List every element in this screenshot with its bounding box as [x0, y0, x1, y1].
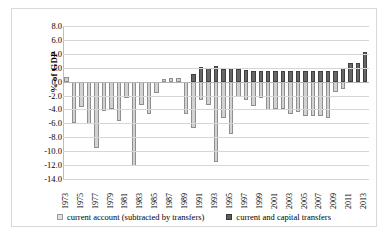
- bar-group[interactable]: [221, 26, 225, 179]
- bar-group[interactable]: [87, 26, 91, 179]
- y-axis-tick-label: -12.0: [28, 161, 62, 170]
- bar-group[interactable]: [139, 26, 143, 179]
- y-axis-tick-label: -2.0: [28, 91, 62, 100]
- bar-segment-transfers: [244, 70, 248, 82]
- y-axis-tick-label: 8.0: [28, 22, 62, 31]
- bar-group[interactable]: [176, 26, 180, 179]
- y-axis-tick-label: -4.0: [28, 105, 62, 114]
- gridline: [63, 151, 369, 152]
- bar-group[interactable]: [191, 26, 195, 179]
- bar-segment-current-account: [311, 82, 315, 117]
- bar-group[interactable]: [236, 26, 240, 179]
- bar-group[interactable]: [64, 26, 68, 179]
- x-axis-tick-label: 2001: [271, 193, 279, 209]
- gridline: [63, 165, 369, 166]
- bar-group[interactable]: [206, 26, 210, 179]
- gridline: [63, 26, 369, 27]
- x-axis-tick-label: 1999: [256, 193, 264, 209]
- y-axis-tick-label: 6.0: [28, 36, 62, 45]
- x-axis-tick-label: 1987: [166, 193, 174, 209]
- bar-group[interactable]: [296, 26, 300, 179]
- bar-group[interactable]: [94, 26, 98, 179]
- bar-segment-transfers: [191, 74, 195, 82]
- bar-group[interactable]: [341, 26, 345, 179]
- bar-group[interactable]: [303, 26, 307, 179]
- x-axis-tick-label: 2013: [360, 193, 368, 209]
- bar-group[interactable]: [273, 26, 277, 179]
- bar-segment-transfers: [296, 71, 300, 81]
- bar-segment-transfers: [236, 69, 240, 82]
- bar-segment-current-account: [79, 82, 83, 107]
- bar-segment-transfers: [341, 68, 345, 82]
- legend-swatch-transfers: [226, 214, 232, 220]
- x-axis-tick-label: 1991: [196, 193, 204, 209]
- x-axis-tick-label: 2007: [315, 193, 323, 209]
- bar-group[interactable]: [72, 26, 76, 179]
- x-axis-tick-label: 1995: [226, 193, 234, 209]
- y-axis-tick-label: -14.0: [28, 175, 62, 184]
- bar-group[interactable]: [154, 26, 158, 179]
- bar-segment-transfers: [326, 71, 330, 81]
- bar-group[interactable]: [288, 26, 292, 179]
- y-axis-ticks: 8.06.04.02.00.0-2.0-4.0-6.0-8.0-10.0-12.…: [24, 9, 62, 226]
- bar-group[interactable]: [124, 26, 128, 179]
- y-axis-tick-label: -6.0: [28, 119, 62, 128]
- bar-segment-current-account: [221, 82, 225, 118]
- x-axis-ticks: 1973197519771979198119831985198719891991…: [63, 179, 369, 209]
- bar-group[interactable]: [147, 26, 151, 179]
- bar-group[interactable]: [244, 26, 248, 179]
- bar-group[interactable]: [229, 26, 233, 179]
- bar-group[interactable]: [311, 26, 315, 179]
- bar-group[interactable]: [348, 26, 352, 179]
- bar-segment-transfers: [251, 71, 255, 82]
- bar-segment-current-account: [191, 82, 195, 128]
- bar-segment-current-account: [139, 82, 143, 106]
- legend-item-current-account: current account (subtracted by transfers…: [57, 212, 204, 222]
- bar-group[interactable]: [251, 26, 255, 179]
- bar-group[interactable]: [184, 26, 188, 179]
- bar-segment-transfers: [281, 71, 285, 82]
- x-axis-tick-label: 1997: [241, 193, 249, 209]
- bar-group[interactable]: [266, 26, 270, 179]
- bar-segment-transfers: [259, 71, 263, 82]
- y-axis-tick-label: -8.0: [28, 133, 62, 142]
- bar-group[interactable]: [318, 26, 322, 179]
- gridline: [63, 137, 369, 138]
- bar-segment-transfers: [333, 71, 337, 82]
- bar-group[interactable]: [169, 26, 173, 179]
- zero-baseline: [63, 82, 369, 83]
- bar-group[interactable]: [79, 26, 83, 179]
- chart-figure: % of GDP 8.06.04.02.00.0-2.0-4.0-6.0-8.0…: [11, 8, 377, 227]
- y-axis-tick-label: 4.0: [28, 50, 62, 59]
- bar-segment-transfers: [199, 67, 203, 82]
- bar-group[interactable]: [333, 26, 337, 179]
- bar-group[interactable]: [259, 26, 263, 179]
- x-axis-tick-label: 1973: [62, 193, 70, 209]
- bar-group[interactable]: [214, 26, 218, 179]
- y-axis-tick-label: 2.0: [28, 63, 62, 72]
- x-axis-tick-label: 2003: [286, 193, 294, 209]
- bar-segment-current-account: [326, 82, 330, 118]
- bar-group[interactable]: [132, 26, 136, 179]
- bar-group[interactable]: [363, 26, 367, 179]
- bar-group[interactable]: [199, 26, 203, 179]
- bar-segment-current-account: [154, 82, 158, 93]
- legend-swatch-current-account: [57, 214, 63, 220]
- bar-segment-current-account: [229, 82, 233, 135]
- y-axis-tick-label: 0.0: [28, 77, 62, 86]
- bar-group[interactable]: [117, 26, 121, 179]
- bar-group[interactable]: [162, 26, 166, 179]
- bar-group[interactable]: [102, 26, 106, 179]
- bar-group[interactable]: [326, 26, 330, 179]
- bar-group[interactable]: [281, 26, 285, 179]
- x-axis-tick-label: 1981: [121, 193, 129, 209]
- x-axis-tick-label: 1985: [151, 193, 159, 209]
- bar-segment-current-account: [303, 82, 307, 117]
- bar-segment-current-account: [333, 82, 337, 92]
- bar-group[interactable]: [356, 26, 360, 179]
- bar-group[interactable]: [109, 26, 113, 179]
- gridline: [63, 40, 369, 41]
- x-axis-tick-label: 2005: [301, 193, 309, 209]
- bar-segment-transfers: [288, 71, 292, 81]
- x-axis-tick-label: 1989: [181, 193, 189, 209]
